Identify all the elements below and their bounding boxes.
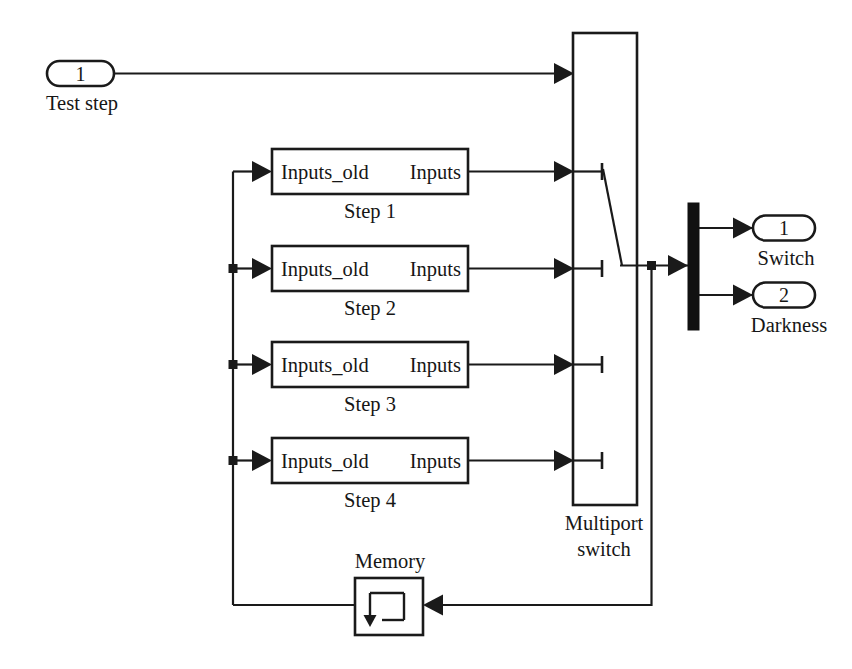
demux-block[interactable]	[688, 203, 699, 330]
output-port-label: Switch	[758, 247, 815, 269]
output-port-switch[interactable]: 1 Switch	[753, 216, 815, 270]
step-block-input-label: Inputs_old	[281, 161, 369, 184]
arrow-head-icon	[554, 450, 574, 471]
input-port-label: Test step	[46, 92, 118, 115]
input-port-test-step[interactable]: 1 Test step	[46, 61, 118, 115]
step-block-1[interactable]: Inputs_old Inputs Step 1	[272, 149, 468, 223]
step-block-input-label: Inputs_old	[281, 450, 369, 473]
memory-block-caption: Memory	[355, 550, 426, 573]
multiport-switch-block[interactable]: Multiport switch	[565, 33, 644, 560]
output-port-number: 2	[779, 284, 789, 306]
arrow-head-icon	[252, 354, 272, 375]
arrow-head-icon	[554, 258, 574, 279]
wire-demux-to-output-2	[699, 285, 753, 306]
output-port-number: 1	[779, 217, 789, 239]
step-block-3[interactable]: Inputs_old Inputs Step 3	[272, 342, 468, 416]
step-block-output-label: Inputs	[410, 258, 461, 281]
step-block-caption: Step 4	[344, 489, 396, 512]
step-block-2[interactable]: Inputs_old Inputs Step 2	[272, 246, 468, 320]
arrow-head-icon	[252, 450, 272, 471]
step-block-input-label: Inputs_old	[281, 258, 369, 281]
wire-demux-to-output-1	[699, 218, 753, 239]
input-port-number: 1	[76, 63, 86, 85]
arrow-head-icon	[733, 218, 753, 239]
block-diagram-canvas: 1 Test step Inputs_old Inputs Step 1 Inp…	[0, 0, 852, 669]
output-port-darkness[interactable]: 2 Darkness	[751, 283, 827, 337]
step-block-output-label: Inputs	[410, 161, 461, 184]
demux-bar	[688, 203, 699, 330]
arrow-head-icon	[554, 63, 574, 84]
step-block-caption: Step 3	[344, 393, 396, 416]
arrow-head-icon	[668, 255, 688, 276]
step-block-caption: Step 2	[344, 297, 396, 320]
junction-dot	[229, 264, 238, 273]
wire-test-step-to-switch-control	[114, 63, 597, 84]
step-block-4[interactable]: Inputs_old Inputs Step 4	[272, 438, 468, 512]
arrow-head-icon	[554, 354, 574, 375]
memory-block-body	[355, 578, 423, 635]
arrow-head-icon	[252, 258, 272, 279]
junction-dot	[229, 456, 238, 465]
memory-block[interactable]: Memory	[355, 550, 426, 635]
step-block-caption: Step 1	[344, 200, 396, 223]
junction-dot	[229, 360, 238, 369]
step-block-input-label: Inputs_old	[281, 354, 369, 377]
wires-steps-to-switch	[468, 161, 574, 471]
arrow-head-icon	[733, 285, 753, 306]
simulink-diagram: 1 Test step Inputs_old Inputs Step 1 Inp…	[0, 0, 852, 669]
multiport-switch-caption-line1: Multiport	[565, 512, 644, 535]
step-block-output-label: Inputs	[410, 450, 461, 473]
output-port-label: Darkness	[751, 314, 827, 336]
step-block-output-label: Inputs	[410, 354, 461, 377]
arrow-head-icon	[423, 595, 443, 616]
multiport-switch-caption-line2: switch	[577, 538, 631, 560]
arrow-head-icon	[554, 161, 574, 182]
arrow-head-icon	[252, 161, 272, 182]
